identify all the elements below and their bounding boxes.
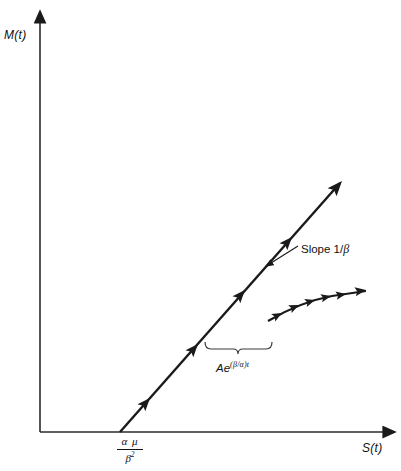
y-axis-label: M(t) <box>4 28 27 42</box>
growth-term-annotation: Ae(β/α)t <box>216 361 249 374</box>
math-diagram <box>0 0 401 471</box>
growth-term-exponent: (β/α)t <box>230 360 249 369</box>
slope-annotation-prefix: Slope 1/ <box>301 243 343 255</box>
x-axis-label: S(t) <box>362 441 383 455</box>
transient-curve <box>268 285 367 321</box>
x-intercept-numerator: α μ <box>103 436 157 448</box>
gap-brace <box>205 342 272 354</box>
growth-term-base: Ae <box>216 362 230 374</box>
slope-pointer-arrow <box>271 246 298 263</box>
x-intercept-denominator-exponent: 2 <box>131 450 135 459</box>
x-intercept-denominator: β2 <box>103 451 157 464</box>
slope-annotation: Slope 1/β <box>301 242 349 257</box>
slope-annotation-beta: β <box>343 242 349 256</box>
asymptotic-line <box>120 177 346 432</box>
x-intercept-label: α μ β2 <box>103 436 157 464</box>
